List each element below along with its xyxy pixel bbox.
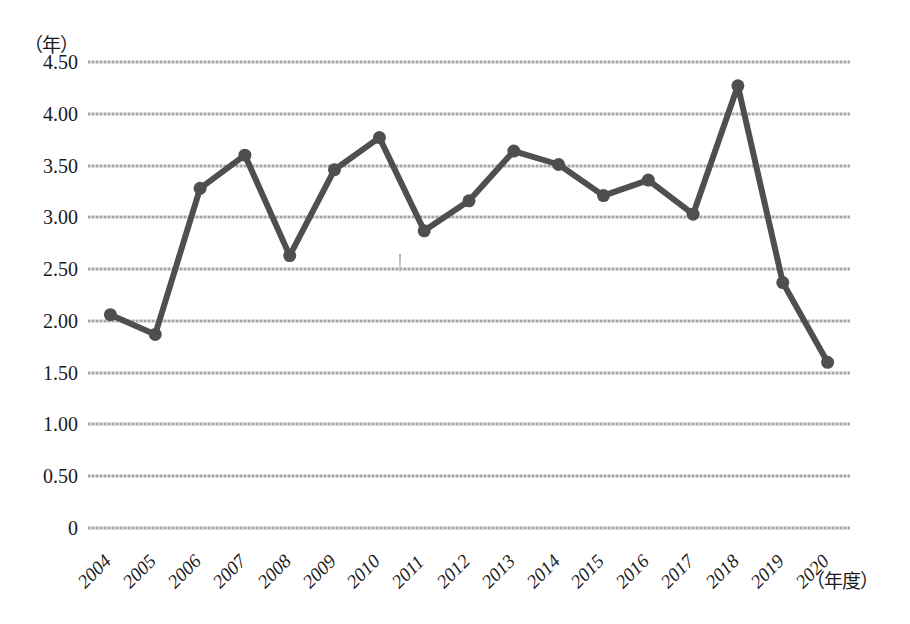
y-axis-tick-labels: 00.501.001.502.002.503.003.504.004.50: [0, 0, 78, 624]
x-axis-tick-label: 2014: [522, 550, 564, 592]
y-axis-tick-label: 3.00: [2, 207, 78, 227]
data-point-marker: [597, 189, 610, 202]
x-axis-tick-label: 2019: [746, 550, 788, 592]
data-point-marker: [463, 194, 476, 207]
x-axis-tick-label: 2004: [74, 550, 116, 592]
data-point-marker: [328, 163, 341, 176]
x-axis-tick-label: 2007: [208, 550, 250, 592]
y-axis-tick-label: 3.50: [2, 156, 78, 176]
line-chart: （年） 00.501.001.502.002.503.003.504.004.5…: [0, 0, 910, 624]
y-axis-tick-label: 1.50: [2, 363, 78, 383]
x-axis-tick-label: 2018: [701, 550, 743, 592]
scan-artifact-mark: [399, 254, 401, 272]
x-axis-tick-label: 2011: [387, 551, 428, 592]
x-axis-tick-label: 2017: [656, 550, 698, 592]
y-axis-tick-label: 0.50: [2, 466, 78, 486]
x-axis-tick-label: 2006: [163, 550, 205, 592]
data-point-marker: [687, 208, 700, 221]
data-point-marker: [194, 182, 207, 195]
y-axis-tick-label: 0: [2, 518, 78, 538]
x-axis-tick-label: 2016: [612, 550, 654, 592]
x-axis-tick-label: 2015: [567, 550, 609, 592]
data-point-marker: [642, 174, 655, 187]
x-axis-tick-label: 2005: [118, 550, 160, 592]
y-axis-tick-label: 4.50: [2, 52, 78, 72]
data-point-marker: [731, 79, 744, 92]
data-point-marker: [507, 145, 520, 158]
x-axis-tick-label: 2013: [477, 550, 519, 592]
data-point-marker: [552, 158, 565, 171]
data-point-marker: [373, 131, 386, 144]
y-axis-tick-label: 2.50: [2, 259, 78, 279]
data-point-marker: [418, 224, 431, 237]
data-point-marker: [104, 308, 117, 321]
data-point-marker: [776, 276, 789, 289]
x-axis-tick-label: 2008: [253, 550, 295, 592]
y-axis-tick-label: 2.00: [2, 311, 78, 331]
data-point-marker: [238, 149, 251, 162]
plot-area: [88, 62, 850, 528]
x-axis-tick-label: 2010: [343, 550, 385, 592]
data-point-marker: [283, 249, 296, 262]
y-axis-tick-label: 1.00: [2, 414, 78, 434]
x-axis-tick-label: 2012: [432, 550, 474, 592]
x-axis-tick-labels: 2004200520062007200820092010201120122013…: [88, 528, 850, 598]
data-point-marker: [149, 328, 162, 341]
data-series-line: [88, 62, 850, 528]
x-axis-unit-label: （年度）: [806, 566, 878, 593]
data-point-marker: [821, 356, 834, 369]
x-axis-tick-label: 2009: [298, 550, 340, 592]
series-polyline: [110, 86, 827, 363]
y-axis-tick-label: 4.00: [2, 104, 78, 124]
